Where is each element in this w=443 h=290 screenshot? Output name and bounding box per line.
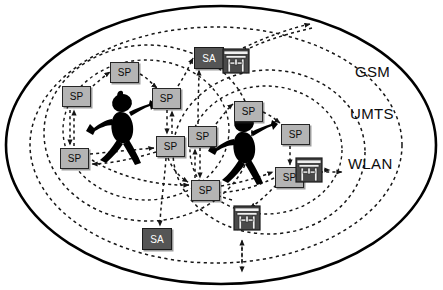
network-diagram-svg — [0, 0, 443, 290]
node-sp2[interactable]: SP — [110, 62, 139, 83]
gsm-label: GSM — [355, 63, 390, 80]
link-sp1-sp2 — [88, 72, 110, 90]
torii-gate-icon[interactable] — [222, 46, 250, 78]
umts-label: UMTS — [350, 105, 394, 122]
node-sp6[interactable]: SP — [188, 126, 217, 147]
node-sp3[interactable]: SP — [152, 88, 181, 109]
node-sp10[interactable]: SP — [191, 180, 220, 201]
link-sp3-sa1 — [178, 58, 193, 86]
link-sp5-sp10 — [92, 160, 189, 185]
link-sp5-sp4 — [90, 148, 154, 154]
wlan-cell-left-boundary — [44, 45, 252, 221]
diagram-canvas: GSM UMTS WLAN SP SP SP SP SP SP SP SP SP… — [0, 0, 443, 290]
link-sp4-sp5 — [92, 152, 156, 164]
node-sp5[interactable]: SP — [60, 148, 89, 169]
wlan-label: WLAN — [348, 155, 393, 172]
link-out-gw1 — [242, 28, 312, 52]
link-sp6-sa1 — [198, 70, 199, 124]
wlan-cell-right-boundary — [173, 70, 365, 234]
node-sp1[interactable]: SP — [62, 86, 91, 107]
torii-gate-icon[interactable] — [233, 203, 261, 235]
link-sp2-sp3 — [140, 74, 157, 88]
node-sp7[interactable]: SP — [234, 101, 263, 122]
link-gw1-out — [243, 24, 310, 48]
torii-gate-icon[interactable] — [295, 155, 323, 187]
node-sp8[interactable]: SP — [281, 124, 310, 145]
node-sa1[interactable]: SA — [194, 47, 224, 69]
link-sp7-sp8 — [263, 112, 280, 123]
link-sp4-sa2 — [160, 158, 166, 226]
node-sa2[interactable]: SA — [142, 228, 172, 250]
node-sp4[interactable]: SP — [156, 136, 185, 157]
